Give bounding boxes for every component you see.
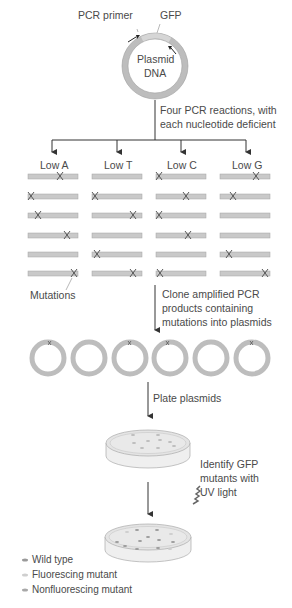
step1-text-1: Four PCR reactions, with: [160, 104, 277, 117]
pcr-primer-label: PCR primer: [78, 9, 133, 22]
step2-text-3: mutations into plasmids: [162, 316, 272, 329]
legend-nonfluorescing-mutant: Nonfluorescing mutant: [32, 583, 132, 596]
legend-fluorescing-mutant: Fluorescing mutant: [32, 568, 117, 581]
legend-swatch-fluorescing: [22, 574, 28, 577]
reaction-label-low-g: Low G: [232, 159, 262, 172]
reaction-label-low-t: Low T: [104, 159, 132, 172]
step2-text-1: Clone amplified PCR: [162, 288, 259, 301]
step3-text: Plate plasmids: [153, 392, 221, 405]
legend-swatch-wild-type: [22, 559, 28, 562]
step4-text-2: mutants with: [200, 472, 259, 485]
uv-light-icon: [193, 486, 200, 504]
plasmid-label-1: Plasmid: [137, 53, 174, 66]
gfp-label: GFP: [160, 9, 182, 22]
petri-dish-1: [106, 430, 190, 468]
plasmid-label-2: DNA: [144, 67, 166, 80]
pcr-products: [28, 174, 270, 276]
step1-text-2: each nucleotide deficient: [160, 118, 276, 131]
step2-text-2: products containing: [162, 302, 253, 315]
step4-text-1: Identify GFP: [200, 458, 258, 471]
petri-dish-2: [105, 524, 191, 562]
legend-wild-type: Wild type: [32, 553, 73, 566]
reaction-label-low-a: Low A: [40, 159, 69, 172]
mutations-label: Mutations: [30, 289, 76, 302]
mutant-plasmids: [32, 341, 268, 374]
reaction-label-low-c: Low C: [167, 159, 197, 172]
legend-swatch-nonfluorescing: [22, 589, 28, 592]
step4-text-3: UV light: [200, 486, 237, 499]
